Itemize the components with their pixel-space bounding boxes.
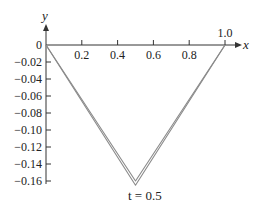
chart: 0.20.40.60.81.00−0.02−0.04−0.06−0.08−0.1… <box>0 0 253 206</box>
y-tick-label: −0.16 <box>14 174 42 188</box>
x-tick-label: 1.0 <box>218 26 233 40</box>
axes <box>43 24 242 184</box>
x-tick-label: 0.8 <box>182 48 197 62</box>
y-tick-label: −0.10 <box>14 123 42 137</box>
x-axis-label: x <box>242 37 249 52</box>
series-line-inner <box>46 45 225 181</box>
y-tick-label: −0.02 <box>14 55 42 69</box>
chart-caption: t = 0.5 <box>128 188 162 203</box>
y-tick-label: −0.08 <box>14 106 42 120</box>
x-tick-label: 0.2 <box>74 48 89 62</box>
y-tick-label: −0.06 <box>14 89 42 103</box>
series <box>46 45 225 185</box>
series-line-outer <box>46 45 225 185</box>
y-tick-label: −0.14 <box>14 157 42 171</box>
y-tick-label: −0.12 <box>14 140 42 154</box>
y-tick-label: 0 <box>36 38 42 52</box>
y-tick-label: −0.04 <box>14 72 42 86</box>
x-tick-label: 0.6 <box>146 48 161 62</box>
x-axis-arrow <box>235 42 242 48</box>
y-axis-arrow <box>43 24 49 31</box>
ticks: 0.20.40.60.81.00−0.02−0.04−0.06−0.08−0.1… <box>14 26 232 188</box>
y-axis-label: y <box>40 8 48 23</box>
x-tick-label: 0.4 <box>110 48 125 62</box>
